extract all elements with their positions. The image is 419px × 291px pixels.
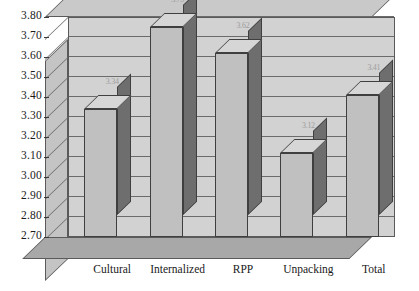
y-axis-tick-label: 2.80 (2, 209, 42, 221)
bar-value-label: 3.62 (213, 21, 273, 30)
y-axis-tick-mark (44, 57, 49, 58)
bar[interactable] (280, 131, 313, 237)
bar-side-face (183, 0, 197, 215)
y-axis-tick-label: 3.00 (2, 169, 42, 181)
bar-value-label: 3.34 (82, 77, 142, 86)
y-axis-tick-mark (44, 157, 49, 158)
y-axis-tick-label: 3.20 (2, 129, 42, 141)
bar-front-face (280, 153, 313, 237)
bar-front-face (84, 109, 117, 237)
bar-chart: 3.803.703.603.503.403.303.203.103.002.90… (0, 0, 419, 291)
bar-value-label: 3.75 (148, 0, 208, 4)
y-axis-tick-label: 3.30 (2, 109, 42, 121)
y-axis-tick-mark (44, 37, 49, 38)
y-axis-tick-label: 3.50 (2, 69, 42, 81)
y-axis-tick-mark (44, 17, 49, 18)
y-axis-tick-mark (44, 237, 49, 238)
bar-value-label: 3.41 (344, 63, 404, 72)
bar-front-face (346, 95, 379, 237)
bar[interactable] (215, 31, 248, 237)
chart-wall-top (45, 0, 395, 17)
y-axis-tick-mark (44, 117, 49, 118)
gridline (69, 16, 394, 17)
x-axis-tick-label: Total (324, 263, 419, 275)
y-axis-tick-mark (44, 97, 49, 98)
y-axis-tick-label: 3.80 (2, 9, 42, 21)
chart-floor (22, 237, 372, 259)
y-axis-tick-label: 3.10 (2, 149, 42, 161)
y-axis-tick-label: 2.90 (2, 189, 42, 201)
bar-value-label: 3.12 (278, 121, 338, 130)
y-axis-tick-label: 2.70 (2, 229, 42, 241)
y-axis-tick-label: 3.70 (2, 29, 42, 41)
bar[interactable] (150, 5, 183, 237)
bar-front-face (150, 27, 183, 237)
y-axis-tick-mark (44, 217, 49, 218)
bar-front-face (215, 53, 248, 237)
y-axis-tick-mark (44, 137, 49, 138)
y-axis-tick-label: 3.60 (2, 49, 42, 61)
y-axis-tick-mark (44, 77, 49, 78)
y-axis: 3.803.703.603.503.403.303.203.103.002.90… (0, 0, 42, 291)
y-axis-tick-mark (44, 177, 49, 178)
bar[interactable] (346, 73, 379, 237)
y-axis-tick-mark (44, 197, 49, 198)
bar[interactable] (84, 87, 117, 237)
y-axis-tick-label: 3.40 (2, 89, 42, 101)
bar-side-face (313, 118, 327, 215)
